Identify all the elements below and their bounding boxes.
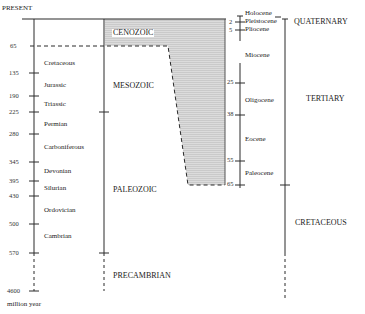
period-label: Devonian	[44, 168, 71, 175]
epoch-tick-label: 25	[227, 79, 234, 86]
epoch-tick-label: 55	[227, 157, 234, 164]
period-label: Carboniferous	[44, 144, 84, 151]
tick-label: 65	[10, 43, 17, 50]
period-label: Cretaceous	[44, 60, 75, 67]
geologic-timescale-lines	[0, 0, 365, 314]
tick-label: 135	[9, 70, 19, 77]
tick-label: 570	[9, 250, 19, 257]
epoch-label: Eocene	[245, 136, 266, 143]
tick-label: 500	[9, 221, 19, 228]
era-label-paleozoic: PALEOZOIC	[113, 186, 157, 194]
era-label-mesozoic: MESOZOIC	[113, 82, 154, 90]
epoch-label: Holocene	[245, 10, 272, 17]
present-label: PRESENT	[2, 5, 32, 12]
epoch-tick-label: 5	[229, 27, 232, 34]
epoch-label: Miocene	[245, 52, 270, 59]
epoch-tick-label: 65	[227, 181, 234, 188]
period-label-cretaceous: CRETACEOUS	[295, 219, 347, 227]
period-label: Silurian	[44, 185, 66, 192]
tick-label: 225	[9, 109, 19, 116]
period-label: Cambrian	[44, 233, 72, 240]
tick-label: 345	[9, 159, 19, 166]
epoch-label: Paleocene	[245, 170, 273, 177]
epoch-tick-label: 2	[229, 19, 232, 26]
epoch-tick-label: 38	[227, 111, 234, 118]
unit-label: million year	[7, 301, 41, 308]
tick-label: 4600	[7, 288, 20, 295]
tick-label: 395	[9, 178, 19, 185]
period-label: Jurassic	[44, 82, 66, 89]
epoch-label: Oligocene	[245, 97, 274, 104]
cenozoic-shaded-region	[105, 19, 225, 185]
tick-label: 430	[9, 193, 19, 200]
epoch-label: Pleistocene	[245, 18, 277, 25]
tick-label: 280	[9, 131, 19, 138]
period-label: Permian	[44, 121, 67, 128]
epoch-label: Pliocene	[245, 26, 269, 33]
period-label-tertiary: TERTIARY	[306, 95, 345, 103]
tick-label: 190	[9, 93, 19, 100]
period-label: Ordovician	[44, 207, 76, 214]
period-label: Triassic	[44, 101, 66, 108]
period-label-quaternary: QUATERNARY	[294, 18, 348, 26]
era-label-cenozoic: CENOZOIC	[112, 29, 154, 37]
era-label-precambrian: PRECAMBRIAN	[113, 272, 171, 280]
